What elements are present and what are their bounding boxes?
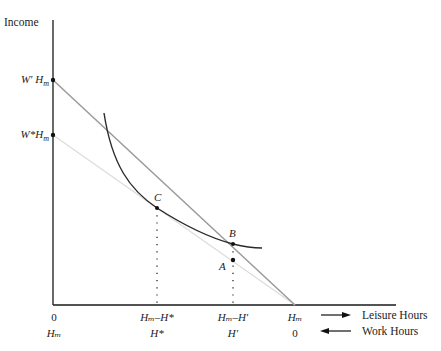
budget-line-high-wage bbox=[53, 80, 295, 305]
y-tick-low-wage-income: W*Hm bbox=[21, 129, 49, 143]
work-tick-hm: Hₘ bbox=[47, 328, 62, 339]
leisure-arrowhead-icon bbox=[342, 312, 351, 318]
indifference-curve bbox=[104, 113, 262, 248]
point-a bbox=[231, 258, 235, 262]
point-c-label: C bbox=[154, 192, 161, 203]
leisure-tick-hm-minus-hprime: Hₘ–H′ bbox=[218, 312, 249, 323]
work-tick-0: 0 bbox=[292, 328, 298, 339]
y-axis-label: Income bbox=[4, 17, 38, 29]
budget-line-low-wage bbox=[53, 135, 295, 305]
point-b-label: B bbox=[229, 228, 236, 239]
work-tick-hstar: H* bbox=[150, 328, 163, 339]
y-intercept-low bbox=[51, 133, 55, 137]
y-tick-high-wage-income: W′ Hm bbox=[21, 74, 49, 88]
work-tick-hprime: H′ bbox=[228, 328, 238, 339]
leisure-hours-caption: Leisure Hours bbox=[362, 310, 427, 322]
y-intercept-high bbox=[51, 78, 55, 82]
leisure-tick-hm-minus-hstar: Hₘ–H* bbox=[140, 312, 174, 323]
point-a-label: A bbox=[219, 261, 226, 272]
leisure-tick-hm: Hₘ bbox=[288, 312, 303, 323]
work-arrowhead-icon bbox=[320, 328, 329, 334]
leisure-tick-0: 0 bbox=[51, 312, 57, 323]
point-b bbox=[231, 242, 235, 246]
work-hours-caption: Work Hours bbox=[362, 326, 418, 338]
labor-leisure-diagram bbox=[0, 0, 441, 351]
point-c bbox=[155, 206, 159, 210]
